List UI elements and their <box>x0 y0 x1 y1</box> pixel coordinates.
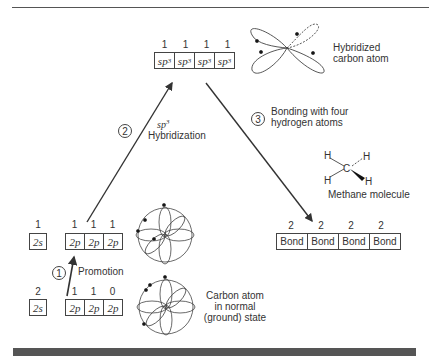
promoted-2s-box: 2s <box>29 233 47 250</box>
arrow-bonding <box>206 83 312 221</box>
occupancy-value: 1 <box>154 39 175 50</box>
orbital-box-2p: 2p <box>65 233 85 250</box>
step-3-marker: 3 <box>251 112 265 126</box>
sp3-orbital-boxes: sp3 sp3 sp3 sp3 <box>154 52 235 69</box>
bonding-label: Bonding with four hydrogen atoms <box>271 106 348 128</box>
bond-occupancy: 2 2 2 2 <box>276 220 396 231</box>
methane-h-bottom-right: H <box>365 176 372 187</box>
occupancy-value: 2 <box>366 220 396 231</box>
orbital-box-2p: 2p <box>104 233 123 250</box>
promotion-label: Promotion <box>78 266 124 277</box>
orbital-box-2p: 2p <box>65 299 85 316</box>
bond-box: Bond <box>339 233 370 250</box>
occupancy-value: 2 <box>276 220 306 231</box>
ground-state-orbital-icon <box>137 275 195 335</box>
orbital-box-sp3: sp3 <box>215 52 235 69</box>
occupancy-value: 2 <box>306 220 336 231</box>
ground-2s-occupancy: 2 <box>29 286 47 297</box>
orbital-box-2p: 2p <box>104 299 123 316</box>
orbital-box-sp3: sp3 <box>154 52 175 69</box>
orbital-box-2s: 2s <box>29 233 47 250</box>
bond-box: Bond <box>308 233 339 250</box>
occupancy-value: 1 <box>196 39 217 50</box>
bond-box: Bond <box>276 233 308 250</box>
orbital-box-sp3: sp3 <box>195 52 215 69</box>
hybridized-orbital-icon <box>251 24 324 73</box>
occupancy-value: 1 <box>217 39 238 50</box>
methane-h-top-left: H <box>324 150 331 161</box>
orbital-box-2p: 2p <box>85 299 104 316</box>
promoted-2p-boxes: 2p 2p 2p <box>65 233 123 250</box>
occupancy-value: 1 <box>175 39 196 50</box>
promoted-orbital-icon <box>136 203 194 264</box>
step-1-marker: 1 <box>52 266 66 280</box>
methane-label: Methane molecule <box>328 189 410 200</box>
bond-box: Bond <box>370 233 401 250</box>
hybridization-label: Hybridization <box>148 130 206 141</box>
ground-2p-occupancy: 1 1 0 <box>65 286 122 297</box>
occupancy-value: 2 <box>336 220 366 231</box>
bond-boxes: Bond Bond Bond Bond <box>276 233 401 250</box>
ground-state-label: Carbon atom in normal (ground) state <box>200 290 270 323</box>
methane-h-bottom-left: H <box>324 175 331 186</box>
orbital-box-sp3: sp3 <box>175 52 195 69</box>
orbital-box-2p: 2p <box>85 233 104 250</box>
step-2-marker: 2 <box>118 124 132 138</box>
sp3-occupancy: 1 1 1 1 <box>154 39 238 50</box>
sp3-label: sp3 <box>157 117 169 130</box>
methane-c: C <box>343 163 350 174</box>
promoted-2p-occupancy: 1 1 1 <box>65 219 122 230</box>
orbital-box-2s: 2s <box>29 299 47 316</box>
hybridized-carbon-label: Hybridized carbon atom <box>333 42 389 64</box>
promoted-2s-occupancy: 1 <box>29 219 47 230</box>
ground-2p-boxes: 2p 2p 2p <box>65 299 123 316</box>
bottom-rule <box>13 348 416 356</box>
ground-2s-box: 2s <box>29 299 47 316</box>
arrow-hybridization <box>87 83 172 222</box>
methane-h-top-right: H <box>363 151 370 162</box>
